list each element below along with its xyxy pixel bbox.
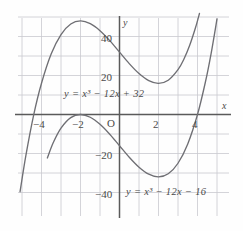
coordinate-plot [0, 0, 243, 231]
x-axis-label: x [222, 101, 226, 111]
y-tick-label--20: −20 [95, 150, 112, 161]
equation-label-upper: y = x³ − 12x + 32 [64, 89, 144, 100]
x-tick-label--2: −2 [72, 119, 84, 130]
origin-label: O [107, 118, 115, 129]
x-tick-label-4: 4 [192, 119, 198, 130]
equation-label-lower: y = x³ − 12x − 16 [126, 187, 206, 198]
y-axis-label: y [123, 18, 127, 28]
y-tick-label-20: 20 [101, 72, 112, 83]
y-tick-label--40: −40 [95, 189, 112, 200]
x-tick-label-2: 2 [153, 119, 159, 130]
y-tick-label-40: 40 [101, 33, 112, 44]
graph-figure: y x O −4 −2 2 4 40 20 −20 −40 y = x³ − 1… [0, 0, 243, 231]
x-tick-label--4: −4 [33, 119, 45, 130]
